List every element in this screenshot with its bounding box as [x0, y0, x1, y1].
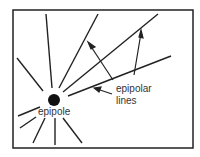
- epipolar-line: [33, 118, 45, 143]
- epipolar-label-line1: epipolar: [116, 83, 152, 94]
- epipolar-line: [46, 14, 52, 88]
- arrow-icon: [90, 45, 113, 80]
- arrow-head-icon: [94, 87, 101, 92]
- epipolar-label-line2: lines: [116, 95, 137, 106]
- epipolar-line-group: [17, 14, 171, 145]
- epipole-point: [48, 94, 60, 106]
- epipole-label: epipole: [38, 106, 71, 117]
- arrow-head-icon: [139, 30, 143, 38]
- epipolar-diagram: epipole epipolar lines: [0, 0, 200, 157]
- epipolar-line: [63, 118, 82, 143]
- arrow-head-icon: [88, 42, 95, 49]
- epipolar-line: [59, 14, 98, 88]
- epipolar-line: [17, 58, 43, 91]
- epipolar-line: [18, 107, 40, 116]
- epipolar-line: [20, 117, 36, 128]
